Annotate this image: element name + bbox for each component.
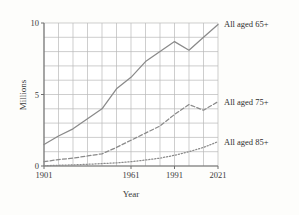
line-chart-svg: 05101901196119912021 All aged 65+All age… bbox=[0, 0, 299, 215]
grid-layer bbox=[44, 23, 218, 166]
y-axis-title: Millions bbox=[18, 79, 28, 110]
series-labels-layer: All aged 65+All aged 75+All aged 85+ bbox=[224, 19, 269, 146]
series-label-0: All aged 65+ bbox=[224, 19, 269, 29]
y-tick-label: 10 bbox=[31, 18, 40, 28]
chart-figure: 05101901196119912021 All aged 65+All age… bbox=[0, 0, 299, 215]
x-tick-label: 1901 bbox=[36, 170, 53, 180]
x-axis-title: Year bbox=[123, 189, 140, 199]
x-tick-label: 1991 bbox=[166, 170, 183, 180]
series-label-1: All aged 75+ bbox=[224, 97, 269, 107]
x-tick-label: 2021 bbox=[210, 170, 227, 180]
y-tick-label: 5 bbox=[35, 90, 39, 100]
x-tick-label: 1961 bbox=[123, 170, 140, 180]
series-label-2: All aged 85+ bbox=[224, 137, 269, 147]
